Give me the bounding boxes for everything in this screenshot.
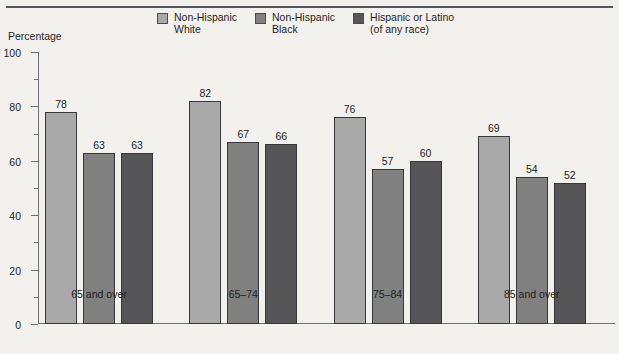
legend-swatch-icon	[353, 13, 364, 24]
chart-legend: Non-Hispanic White Non-Hispanic Black Hi…	[157, 12, 472, 35]
y-tick-label: 20	[9, 265, 21, 277]
y-axis-title: Percentage	[8, 30, 62, 42]
legend-label: Non-Hispanic White	[174, 12, 237, 35]
x-axis-category-label: 65–74	[229, 288, 258, 300]
bar: 52	[554, 183, 586, 324]
y-tick-major: 60	[31, 161, 38, 162]
x-axis-category-label: 85 and over	[504, 288, 559, 300]
legend-label-line2: White	[174, 23, 201, 35]
y-tick-label: 40	[9, 210, 21, 222]
legend-item-non-hispanic-white: Non-Hispanic White	[157, 12, 237, 35]
y-tick-major: 80	[31, 106, 38, 107]
y-tick-minor	[34, 134, 38, 135]
legend-label-line1: Non-Hispanic	[174, 11, 237, 23]
clipped-title-text	[150, 0, 480, 1]
bar: 57	[372, 169, 404, 324]
bar-value-label: 57	[382, 155, 394, 167]
y-tick-label: 100	[3, 47, 21, 59]
y-tick-major: 0	[31, 324, 38, 325]
legend-label: Hispanic or Latino (of any race)	[370, 12, 454, 35]
bar-value-label: 76	[344, 103, 356, 115]
legend-label-line1: Hispanic or Latino	[370, 11, 454, 23]
y-tick-minor	[34, 297, 38, 298]
y-tick-major: 40	[31, 215, 38, 216]
legend-label-line1: Non-Hispanic	[272, 11, 335, 23]
bar-value-label: 63	[93, 139, 105, 151]
y-tick-label: 60	[9, 156, 21, 168]
x-axis-category-label: 75–84	[373, 288, 402, 300]
chart-figure: Non-Hispanic White Non-Hispanic Black Hi…	[0, 0, 619, 354]
legend-item-non-hispanic-black: Non-Hispanic Black	[255, 12, 335, 35]
legend-swatch-icon	[255, 13, 266, 24]
y-axis-line	[38, 52, 39, 324]
plot-area: 020406080100 786363826766765760695452	[38, 52, 615, 324]
y-tick-label: 0	[15, 319, 21, 331]
legend-label-line2: Black	[272, 23, 298, 35]
y-tick-minor	[34, 79, 38, 80]
bar-value-label: 82	[199, 87, 211, 99]
bar-value-label: 78	[55, 98, 67, 110]
bar-value-label: 69	[488, 122, 500, 134]
top-divider-rule	[6, 6, 613, 8]
legend-label: Non-Hispanic Black	[272, 12, 335, 35]
legend-swatch-icon	[157, 13, 168, 24]
bar-value-label: 63	[131, 139, 143, 151]
bar: 60	[410, 161, 442, 324]
bar-value-label: 54	[526, 163, 538, 175]
y-tick-major: 20	[31, 270, 38, 271]
legend-item-hispanic-or-latino: Hispanic or Latino (of any race)	[353, 12, 454, 35]
bar-value-label: 60	[420, 147, 432, 159]
bar: 82	[189, 101, 221, 324]
bar-value-label: 52	[564, 169, 576, 181]
y-tick-minor	[34, 188, 38, 189]
bar-value-label: 66	[275, 130, 287, 142]
legend-label-line2: (of any race)	[370, 23, 429, 35]
y-tick-minor	[34, 242, 38, 243]
bar: 66	[265, 144, 297, 324]
bar: 76	[334, 117, 366, 324]
bar: 54	[516, 177, 548, 324]
bar-value-label: 67	[237, 128, 249, 140]
y-tick-label: 80	[9, 101, 21, 113]
x-axis-category-label: 65 and over	[71, 288, 126, 300]
y-tick-major: 100	[31, 52, 38, 53]
